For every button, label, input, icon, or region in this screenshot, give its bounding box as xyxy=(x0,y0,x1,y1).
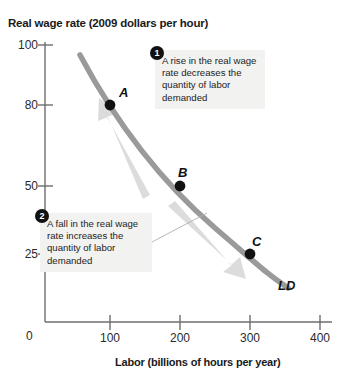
x-tick-label-300: 300 xyxy=(230,331,270,345)
origin-label: 0 xyxy=(26,329,33,343)
point-a-label: A xyxy=(119,85,128,100)
demand-for-labor-chart: Real wage rate (2009 dollars per hour) xyxy=(0,0,340,381)
annotation-callout-1: A rise in the real wage rate decreases t… xyxy=(155,50,265,109)
point-b-label: B xyxy=(178,165,187,180)
y-tick-label-80: 80 xyxy=(6,98,38,112)
point-b-marker xyxy=(175,181,186,192)
x-axis-title: Labor (billions of hours per year) xyxy=(115,356,281,368)
point-a-marker xyxy=(105,100,116,111)
annotation-callout-2: A fall in the real wage rate increases t… xyxy=(40,213,152,272)
x-tick-label-400: 400 xyxy=(300,331,340,345)
y-tick-label-50: 50 xyxy=(6,179,38,193)
point-c-label: C xyxy=(252,234,261,249)
annotation-badge-1: 1 xyxy=(150,46,164,60)
y-tick-label-25: 25 xyxy=(6,247,38,261)
x-tick-label-100: 100 xyxy=(90,331,130,345)
y-tick-label-100: 100 xyxy=(6,38,38,52)
x-tick-label-200: 200 xyxy=(160,331,200,345)
point-c-marker xyxy=(245,249,256,260)
y-axis xyxy=(38,42,53,322)
x-axis xyxy=(45,315,332,330)
annotation-badge-2: 2 xyxy=(35,209,49,223)
labor-demand-curve-label: LD xyxy=(278,278,295,293)
